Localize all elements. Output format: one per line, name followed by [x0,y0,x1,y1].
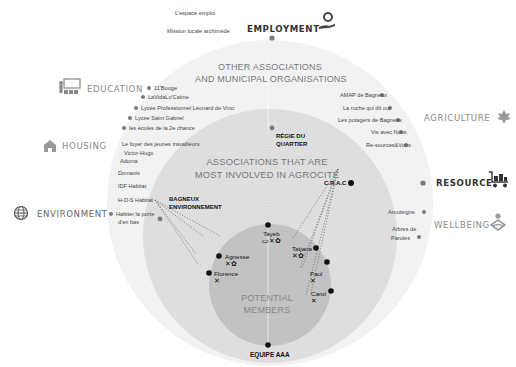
inner-ring-title: POTENTIAL MEMBERS [227,292,307,316]
category-agriculture: AGRICULTURE [424,113,490,123]
inner-ring-title-line1: POTENTIAL [227,292,307,304]
crac: C.R.A.C [324,180,346,188]
globe-icon [13,205,29,221]
member-name: Tatjana [292,245,312,252]
member-name: Agnesse [225,253,249,260]
category-employment: EMPLOYMENT [247,24,320,34]
member-tatjana: Tatjana ✕✿ [292,245,312,260]
agriculture-org: Vis avec Nous [371,129,407,136]
tools-recycle-icon: ✕✿ [292,252,312,260]
category-wellbeing: WELLBEING [434,220,490,230]
equipe-aaa: EQUIPE AAA [250,351,290,359]
meditation-icon [489,212,507,232]
outer-ring-title-line2: AND MUNICIPAL ORGANISATIONS [195,73,345,85]
category-housing: HOUSING [62,141,107,151]
tools-recycle-icon: ✕✿ [225,260,249,268]
education-org: les écoles de la 2e chance [129,125,195,132]
member-name: Paul [310,270,322,277]
classroom-icon [58,78,82,96]
education-org: LaVidaLo'Calme [148,94,189,101]
employment-org: Mission locale archimède [167,28,230,35]
agriculture-org: Re-sources&Vous [366,142,411,149]
middle-ring-title-line1: ASSOCIATIONS THAT ARE [192,156,342,169]
wellbeing-org: Arbres de [392,226,416,233]
employment-dot [269,35,274,40]
category-environment: ENVIRONMENT [37,209,108,219]
tools-icon: ✕ [214,277,238,285]
housing-org: Adoma [120,158,138,165]
education-org: Lycée Saint Gabriel [135,115,184,122]
wellbeing-org: Aroutsigne [388,209,415,216]
member-agnesse: Agnesse ✕✿ [225,253,249,268]
agriculture-org: La ruche qui dit oui [343,105,390,112]
wellbeing-org: Paroles [391,235,410,242]
housing-org: Le foyer des jeunes travailleurs [122,141,199,148]
housing-org: Domaxis [118,170,140,177]
member-name: Carol [311,290,326,297]
screen-tools-recycle-icon: ▭✕✿ [262,237,281,245]
bagneux-environnement: BAGNEUX ENVIRONNEMENT [169,196,222,211]
hand-gear-icon [317,11,337,31]
regie-line2: QUARTIER [276,141,307,149]
tools-icon: ✕ [310,277,322,285]
outer-ring-title: OTHER ASSOCIATIONS AND MUNICIPAL ORGANIS… [195,61,345,85]
education-org: Lycée Professionnel Léonard de Vinci [141,105,235,112]
house-icon [43,139,57,153]
bagneux-line1: BAGNEUX [169,196,222,204]
cart-icon [488,171,510,189]
bagneux-line2: ENVIRONNEMENT [169,204,222,212]
tools-icon: ✕ [311,297,326,305]
resource-dot [420,180,425,185]
member-tayeb: Tayeb ▭✕✿ [262,230,281,245]
agriculture-org: AMAP de Bagneux [340,92,387,99]
member-florence: Florence ✕ [214,270,238,285]
outer-ring-title-line1: OTHER ASSOCIATIONS [195,61,345,73]
regie-du-quartier: RÉGIE DU QUARTIER [276,133,307,148]
leaf-icon [496,109,512,125]
regie-line1: RÉGIE DU [276,133,307,141]
environment-org: d'en bas [118,219,139,226]
member-paul: Paul ✕ [310,270,322,285]
middle-ring-title-line2: MOST INVOLVED IN AGROCITÉ [192,169,342,182]
member-carol: Carol ✕ [311,290,326,305]
education-org: 11'Bouge [154,85,177,92]
member-name: Florence [214,270,238,277]
agriculture-org: Les potagers de Bagneux [338,117,402,124]
employment-org: L'espace emploi [175,10,215,17]
housing-org: Victor-Hugo [124,150,153,157]
category-resource: RESOURCE [436,178,493,188]
middle-ring-title: ASSOCIATIONS THAT ARE MOST INVOLVED IN A… [192,156,342,181]
housing-org: H-D-S Habitat [118,197,153,204]
environment-org: Habiter la porte [116,211,154,218]
member-name: Tayeb [262,230,281,237]
category-education: EDUCATION [87,84,143,94]
housing-org: IDF Habitat [118,183,146,190]
inner-ring-title-line2: MEMBERS [227,304,307,316]
